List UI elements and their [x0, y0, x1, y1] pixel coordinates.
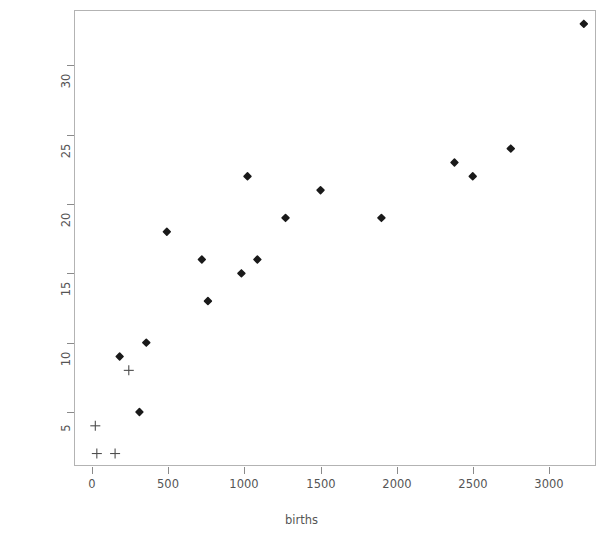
x-axis-tick-label: 500	[143, 477, 193, 491]
x-axis-tick-mark	[397, 467, 398, 474]
y-axis-tick-label: 5	[59, 411, 73, 445]
y-axis-tick-label: 10	[59, 342, 73, 376]
x-axis-tick-mark	[168, 467, 169, 474]
scatter-plot-figure: 51015202530050010001500200025003000 birt…	[0, 0, 603, 542]
x-axis-tick-mark	[92, 467, 93, 474]
x-axis-tick-label: 2500	[448, 477, 498, 491]
x-axis-tick-label: 1000	[219, 477, 269, 491]
x-axis-label: births	[0, 513, 603, 527]
y-axis-tick-label: 25	[59, 134, 73, 168]
y-axis-label: caesareans	[2, 0, 20, 18]
x-axis-tick-label: 2000	[372, 477, 422, 491]
y-axis-tick-label: 30	[59, 64, 73, 98]
x-axis-tick-mark	[473, 467, 474, 474]
y-axis-tick-label: 15	[59, 272, 73, 306]
plot-area-border	[74, 10, 596, 466]
x-axis-tick-label: 1500	[296, 477, 346, 491]
x-axis-tick-mark	[549, 467, 550, 474]
x-axis-tick-label: 0	[67, 477, 117, 491]
x-axis-tick-label: 3000	[524, 477, 574, 491]
x-axis-tick-mark	[244, 467, 245, 474]
x-axis-tick-mark	[321, 467, 322, 474]
y-axis-tick-label: 20	[59, 203, 73, 237]
